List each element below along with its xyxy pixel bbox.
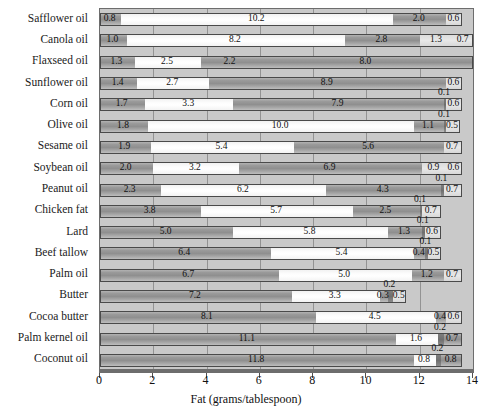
bar-segment	[422, 162, 446, 175]
x-axis-tick-label: 8	[309, 374, 315, 386]
bar-segment	[393, 290, 406, 303]
bar-segment	[446, 311, 462, 324]
bar-segment	[444, 269, 463, 282]
bar-segment	[441, 354, 462, 367]
bar-segment	[100, 77, 137, 90]
bar-segment	[428, 247, 441, 260]
bar-segment	[436, 311, 447, 324]
x-axis-title: Fat (grams/tablespoon)	[0, 392, 492, 407]
y-axis-label: Beef tallow	[35, 247, 88, 259]
bar-segment	[422, 205, 441, 218]
y-axis-label: Lard	[66, 226, 88, 238]
bar-segment	[137, 77, 209, 90]
bar-segment	[446, 77, 462, 90]
bar-segment	[444, 184, 463, 197]
y-axis-label: Soybean oil	[33, 162, 88, 174]
bar-segment	[148, 120, 414, 133]
bar-segment	[161, 184, 326, 197]
bar-segment	[239, 162, 423, 175]
bar-segment	[153, 162, 238, 175]
plot-area	[99, 8, 474, 370]
x-axis-tick-label: 0	[96, 374, 102, 386]
y-axis-label: Palm oil	[49, 268, 88, 280]
bar-segment	[454, 34, 473, 47]
bar-segment	[135, 56, 202, 69]
y-axis-label: Sesame oil	[38, 140, 88, 152]
y-axis-label: Chicken fat	[35, 204, 88, 216]
bar-segment	[100, 141, 151, 154]
bar-segment	[414, 354, 435, 367]
y-axis-label: Butter	[59, 289, 88, 301]
y-axis-label: Palm kernel oil	[18, 332, 88, 344]
bar-segment	[294, 141, 443, 154]
bar-segment	[446, 162, 462, 175]
bar-segment	[100, 226, 233, 239]
bar-segment	[271, 247, 415, 260]
bar-segment	[279, 269, 412, 282]
bar-segment	[100, 13, 121, 26]
x-axis-tick-label: 2	[149, 374, 155, 386]
y-axis-label: Cocoa butter	[29, 311, 88, 323]
bar-segment	[446, 13, 462, 26]
bar-segment	[201, 205, 353, 218]
y-axis-label: Canola oil	[40, 34, 88, 46]
bar-segment	[100, 311, 316, 324]
bar-segment	[100, 290, 292, 303]
bar-segment	[420, 34, 455, 47]
bar-segment	[100, 98, 145, 111]
bar-segment	[316, 311, 436, 324]
x-axis-tick-label: 14	[466, 374, 478, 386]
bar-segment	[233, 226, 388, 239]
bar-segment	[209, 77, 446, 90]
bar-segment	[100, 120, 148, 133]
bar-segment	[100, 205, 201, 218]
x-axis-tick-label: 10	[359, 374, 371, 386]
y-axis-label: Peanut oil	[42, 183, 88, 195]
bar-segment	[127, 34, 345, 47]
bar-segment	[446, 98, 462, 111]
bar-segment	[100, 162, 153, 175]
bar-segment	[446, 120, 459, 133]
bar-segment	[233, 98, 443, 111]
bar-segment	[100, 269, 279, 282]
x-axis-tick-label: 12	[413, 374, 425, 386]
bar-segment	[100, 354, 414, 367]
bar-segment	[425, 226, 441, 239]
y-axis-label: Flaxseed oil	[32, 55, 88, 67]
bar-segment	[396, 333, 439, 346]
bar-segment	[100, 34, 127, 47]
bar-segment	[353, 205, 420, 218]
bar-segment	[414, 247, 425, 260]
bar-segment	[201, 56, 260, 69]
bar-segment	[145, 98, 233, 111]
bar-segment	[412, 269, 444, 282]
bar-segment	[100, 247, 271, 260]
y-axis-labels: Safflower oilCanola oilFlaxseed oilSunfl…	[0, 0, 94, 417]
bar-segment	[380, 290, 388, 303]
bar-segment	[100, 333, 396, 346]
x-axis-tick-label: 6	[256, 374, 262, 386]
y-axis-label: Coconut oil	[34, 353, 88, 365]
bar-segment	[388, 226, 423, 239]
bar-segment	[260, 56, 473, 69]
y-axis-label: Corn oil	[50, 98, 88, 110]
bar-segment	[100, 56, 135, 69]
bar-segment	[151, 141, 295, 154]
y-axis-label: Sunflower oil	[25, 77, 88, 89]
x-axis-tick-label: 4	[203, 374, 209, 386]
bar-segment	[444, 141, 463, 154]
y-axis-label: Safflower oil	[28, 13, 88, 25]
fat-composition-chart: Safflower oilCanola oilFlaxseed oilSunfl…	[0, 0, 492, 417]
bar-segment	[414, 120, 443, 133]
bar-segment	[121, 13, 393, 26]
bar-segment	[326, 184, 441, 197]
bar-segment	[292, 290, 380, 303]
bar-segment	[345, 34, 420, 47]
bar-segment	[444, 333, 463, 346]
bar-segment	[393, 13, 446, 26]
bar-segment	[100, 184, 161, 197]
y-axis-label: Olive oil	[47, 119, 88, 131]
